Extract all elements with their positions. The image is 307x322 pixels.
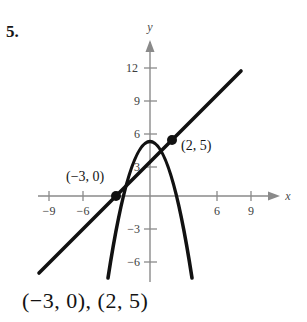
answer-caption: (−3, 0), (2, 5): [22, 288, 148, 314]
y-axis-arrowhead: [146, 40, 155, 52]
x-tick-label-pos9: 9: [248, 204, 254, 218]
y-tick-label-neg6: −6: [127, 255, 140, 269]
x-tick-label-pos6: 6: [214, 204, 220, 218]
y-axis-label: y: [146, 20, 153, 34]
math-figure: 5.: [0, 0, 307, 322]
x-axis-arrowhead: [268, 192, 280, 201]
y-tick-label-neg3: −3: [127, 222, 140, 236]
y-tick-label-12: 12: [126, 61, 138, 75]
coordinate-plane: x y −9 −6 6 9 12 9 6 3 −3 −6 (−3, 0) (2,…: [0, 0, 307, 285]
point-label-neg3-0: (−3, 0): [66, 169, 105, 185]
point-label-2-5: (2, 5): [181, 138, 212, 154]
y-tick-label-6: 6: [134, 127, 140, 141]
graph-svg: x y −9 −6 6 9 12 9 6 3 −3 −6 (−3, 0) (2,…: [0, 0, 307, 285]
y-tick-label-9: 9: [134, 94, 140, 108]
intersection-point-2-5: [167, 135, 177, 145]
x-tick-label-neg9: −9: [43, 204, 56, 218]
intersection-point-neg3-0: [111, 191, 121, 201]
x-axis-label: x: [284, 189, 291, 203]
x-tick-label-neg6: −6: [77, 204, 90, 218]
axes-group: [38, 40, 280, 282]
